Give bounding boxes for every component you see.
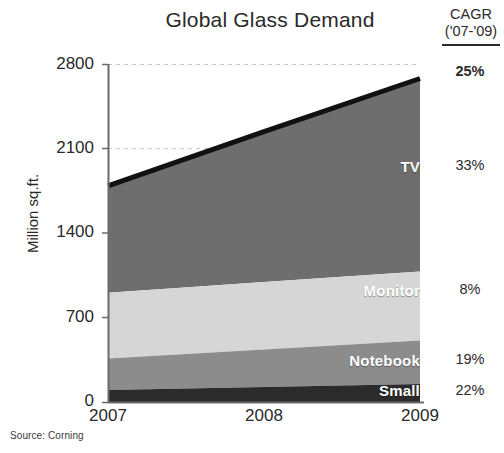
series-label-notebook: Notebook xyxy=(290,352,420,369)
xtick-label-2009: 2009 xyxy=(380,406,460,426)
series-label-monitor: Monitor xyxy=(310,282,420,299)
cagr-value-notebook: 19% xyxy=(438,351,502,367)
y-axis-label: Million sq.ft. xyxy=(24,144,41,284)
xtick-label-2007: 2007 xyxy=(68,406,148,426)
cagr-value-tv: 33% xyxy=(438,157,502,173)
cagr-value-small: 22% xyxy=(438,382,502,398)
chart-canvas: Global Glass Demand CAGR ('07-'09) 2800 … xyxy=(0,0,504,453)
ytick-label-700: 700 xyxy=(18,307,94,327)
series-label-tv: TV xyxy=(330,158,420,175)
cagr-value-total: 25% xyxy=(438,63,502,79)
series-label-small: Small xyxy=(300,382,420,399)
ytick-label-2800: 2800 xyxy=(18,54,94,74)
area-tv xyxy=(108,79,420,293)
cagr-value-monitor: 8% xyxy=(438,281,502,297)
xtick-label-2008: 2008 xyxy=(224,406,304,426)
source-note: Source: Corning xyxy=(10,430,84,441)
